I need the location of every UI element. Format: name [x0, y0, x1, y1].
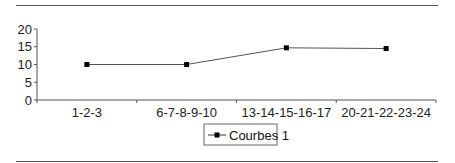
legend: Courbes 1 — [204, 124, 289, 145]
y-tick-label: 20 — [18, 22, 32, 37]
x-tick-label: 1-2-3 — [72, 105, 102, 120]
x-axis: 1-2-36-7-8-9-1013-14-15-16-1720-21-22-23… — [37, 100, 436, 120]
x-tick-label: 13-14-15-16-17 — [242, 105, 332, 120]
y-tick-label: 10 — [18, 57, 32, 72]
y-axis: 05101520 — [18, 22, 37, 108]
y-tick-label: 15 — [18, 39, 32, 54]
y-tick-label: 0 — [25, 93, 32, 108]
y-tick-label: 5 — [25, 75, 32, 90]
data-point-marker — [384, 46, 389, 51]
data-point-marker — [284, 45, 289, 50]
series-courbes-1 — [84, 45, 388, 67]
x-tick-label: 6-7-8-9-10 — [156, 105, 217, 120]
series-line — [87, 48, 386, 65]
legend-label: Courbes 1 — [229, 128, 289, 143]
data-point-marker — [184, 62, 189, 67]
data-point-marker — [84, 62, 89, 67]
legend-marker-icon — [215, 133, 220, 138]
x-tick-label: 20-21-22-23-24 — [341, 105, 431, 120]
line-chart: 05101520 1-2-36-7-8-9-1013-14-15-16-1720… — [0, 0, 455, 163]
